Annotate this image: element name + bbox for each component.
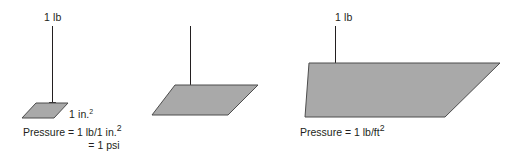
- panel-square-yard: 1 lb 1 yd2 Pressure = 1 lb/yd2: [295, 0, 519, 152]
- weight-label-inch: 1 lb: [44, 11, 61, 23]
- area-label-inch-value: 1 in.: [69, 108, 89, 120]
- area-label-inch-exponent: 2: [89, 108, 93, 115]
- surface-square-yard: [305, 63, 500, 117]
- caption-square-inch-line1-exponent: 2: [117, 123, 122, 133]
- caption-square-inch: Pressure = 1 lb/1 in.2 = 1 psi: [23, 122, 122, 152]
- pressure-comparison-figure: 1 lb 1 in.2 Pressure = 1 lb/1 in.2 = 1 p…: [0, 0, 519, 152]
- panel-square-yard-graphic: [295, 0, 519, 152]
- panel-square-inch: 1 lb 1 in.2 Pressure = 1 lb/1 in.2 = 1 p…: [0, 0, 145, 152]
- surface-square-foot: [152, 85, 258, 115]
- caption-square-inch-line1: Pressure = 1 lb/1 in.: [23, 126, 117, 138]
- caption-square-inch-line2: = 1 psi: [23, 139, 122, 152]
- panel-square-foot-graphic: [145, 0, 295, 152]
- force-arrow-inch: [49, 26, 56, 111]
- area-label-inch: 1 in.2: [69, 108, 93, 120]
- surface-square-inch: [22, 103, 68, 118]
- panel-square-foot: 1 lb 1 ft2 Pressure = 1 lb/ft2: [145, 0, 295, 152]
